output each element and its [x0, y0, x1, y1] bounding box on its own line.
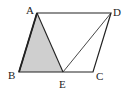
- parallelogram-diagram: A D B E C: [0, 0, 130, 92]
- label-d: D: [113, 6, 121, 18]
- label-a: A: [26, 4, 34, 16]
- segment-de: [63, 13, 111, 72]
- label-c: C: [96, 70, 103, 82]
- label-b: B: [8, 69, 15, 81]
- label-e: E: [59, 78, 66, 90]
